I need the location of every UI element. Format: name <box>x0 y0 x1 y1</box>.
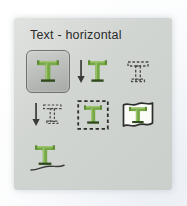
tool-button-text-on-path[interactable] <box>26 136 70 179</box>
tool-icon-grid <box>26 50 166 179</box>
text-tool-panel: Text - horizontal <box>14 18 172 190</box>
text-warp-icon <box>120 99 156 131</box>
tool-button-text-warp[interactable] <box>116 93 160 136</box>
text-mask-horizontal-icon <box>123 57 153 87</box>
text-on-path-icon <box>29 142 67 174</box>
text-vertical-arrow-icon <box>76 57 110 87</box>
tool-button-text-vertical[interactable] <box>71 50 115 93</box>
tool-button-text-mask-vertical[interactable] <box>26 93 70 136</box>
tool-button-text-horizontal[interactable] <box>26 50 70 93</box>
text-mask-vertical-arrow-icon <box>31 100 65 130</box>
text-in-bounding-box-icon <box>76 99 110 131</box>
text-horizontal-icon <box>33 57 63 87</box>
tool-button-text-mask-horizontal[interactable] <box>116 50 160 93</box>
tool-button-text-in-box[interactable] <box>71 93 115 136</box>
page-backdrop: Text - horizontal <box>0 0 187 206</box>
panel-title: Text - horizontal <box>30 28 122 42</box>
